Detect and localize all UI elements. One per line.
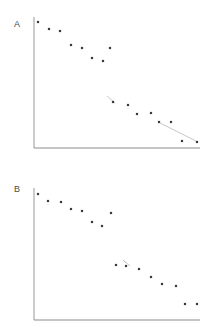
data-point (170, 121, 172, 123)
data-point (70, 208, 72, 210)
connector-segment (123, 260, 126, 263)
data-point (150, 276, 152, 278)
data-point (48, 28, 50, 30)
data-point (175, 285, 177, 287)
data-point (109, 47, 111, 49)
data-point (37, 193, 39, 195)
connector-segment (160, 123, 198, 142)
data-point (115, 264, 117, 266)
data-point (47, 200, 49, 202)
data-point (196, 141, 198, 143)
panel-a: A (0, 0, 208, 168)
data-point (158, 121, 160, 123)
panel-b: B (0, 168, 208, 335)
data-point (70, 44, 72, 46)
panel-b-plot (0, 168, 208, 335)
data-point (112, 101, 114, 103)
data-point (127, 104, 129, 106)
figure-canvas: A B (0, 0, 208, 335)
data-point (125, 265, 127, 267)
data-point (81, 47, 83, 49)
data-point (91, 57, 93, 59)
data-point (101, 225, 103, 227)
data-point (181, 140, 183, 142)
data-point (59, 30, 61, 32)
data-point (196, 303, 198, 305)
data-point (150, 112, 152, 114)
data-point (91, 221, 93, 223)
data-point (110, 212, 112, 214)
data-point (81, 210, 83, 212)
panel-a-plot (0, 0, 208, 168)
data-point (138, 268, 140, 270)
data-point (136, 113, 138, 115)
data-point (37, 21, 39, 23)
data-point (184, 303, 186, 305)
data-point (60, 201, 62, 203)
data-point (102, 60, 104, 62)
data-point (161, 283, 163, 285)
